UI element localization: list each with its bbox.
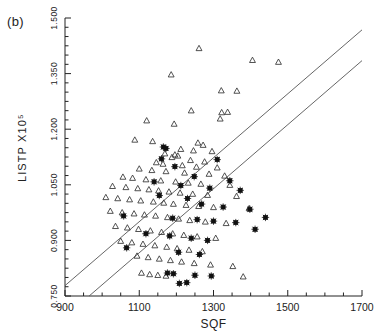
data-point-triangle xyxy=(134,253,140,258)
data-point-star xyxy=(251,226,258,233)
data-point-triangle xyxy=(147,271,153,276)
axis-frame xyxy=(65,18,362,296)
data-point-triangle xyxy=(171,121,177,126)
data-point-triangle xyxy=(225,109,231,114)
data-point-triangle xyxy=(213,235,219,240)
y-tick-label: 0.750 xyxy=(49,284,59,307)
data-point-triangle xyxy=(131,211,137,216)
data-point-star xyxy=(177,182,184,189)
data-point-triangle xyxy=(206,171,212,176)
markers-layer xyxy=(103,45,282,287)
scatter-plot: 9001100130015001700SQF0.7500.9001.0501.2… xyxy=(0,0,374,331)
data-point-triangle xyxy=(205,192,211,197)
data-point-star xyxy=(158,155,165,162)
data-point-star xyxy=(210,217,217,224)
data-point-triangle xyxy=(188,157,194,162)
data-point-triangle xyxy=(149,167,155,172)
data-point-triangle xyxy=(214,165,220,170)
y-tick-label: 0.900 xyxy=(49,229,59,252)
data-point-star xyxy=(219,203,226,210)
data-point-star xyxy=(262,214,269,221)
data-point-triangle xyxy=(158,178,164,183)
data-point-star xyxy=(142,230,149,237)
x-tick-label: 1700 xyxy=(350,301,374,313)
data-point-triangle xyxy=(177,190,183,195)
data-point-star xyxy=(170,270,177,277)
data-point-star xyxy=(176,280,183,287)
data-point-triangle xyxy=(156,256,162,261)
data-point-triangle xyxy=(190,191,196,196)
data-point-triangle xyxy=(140,241,146,246)
x-tick-label: 1300 xyxy=(202,301,226,313)
data-point-star xyxy=(193,216,200,223)
data-point-triangle xyxy=(219,109,225,114)
y-axis-title: LISTP X10⁵ xyxy=(16,113,28,182)
data-point-triangle xyxy=(136,166,142,171)
data-point-triangle xyxy=(160,161,166,166)
data-point-triangle xyxy=(124,225,130,230)
data-point-star xyxy=(232,219,239,226)
y-tick-label: 1.050 xyxy=(49,173,59,196)
data-point-star xyxy=(198,200,205,207)
data-point-triangle xyxy=(138,198,144,203)
data-point-triangle xyxy=(198,181,204,186)
data-point-star xyxy=(150,178,157,185)
data-point-triangle xyxy=(144,118,150,123)
data-point-triangle xyxy=(165,214,171,219)
data-point-star xyxy=(162,145,169,152)
data-point-triangle xyxy=(163,168,169,173)
data-point-triangle xyxy=(115,195,121,200)
data-point-star xyxy=(204,237,211,244)
fit-line-upper-fit xyxy=(65,30,362,286)
data-point-triangle xyxy=(118,238,124,243)
data-point-star xyxy=(123,244,130,251)
data-point-triangle xyxy=(191,260,197,265)
data-point-triangle xyxy=(147,228,153,233)
data-point-triangle xyxy=(185,180,191,185)
data-point-star xyxy=(190,173,197,180)
data-point-triangle xyxy=(234,193,240,198)
data-point-triangle xyxy=(173,179,179,184)
y-tick-label: 1.200 xyxy=(49,118,59,141)
x-axis-title: SQF xyxy=(200,317,226,331)
data-point-triangle xyxy=(250,57,256,62)
data-point-star xyxy=(191,272,198,279)
data-point-triangle xyxy=(130,175,136,180)
data-point-triangle xyxy=(179,162,185,167)
data-point-triangle xyxy=(188,108,194,113)
data-point-triangle xyxy=(150,138,156,143)
data-point-triangle xyxy=(230,263,236,268)
data-point-triangle xyxy=(166,189,172,194)
data-point-triangle xyxy=(186,247,192,252)
data-point-triangle xyxy=(139,270,145,275)
data-point-triangle xyxy=(110,183,116,188)
data-point-triangle xyxy=(195,140,201,145)
data-point-star xyxy=(166,232,173,239)
x-tick-label: 1500 xyxy=(276,301,300,313)
data-point-triangle xyxy=(202,159,208,164)
data-point-triangle xyxy=(168,72,174,77)
data-point-star xyxy=(196,251,203,258)
data-point-star xyxy=(120,212,127,219)
data-point-triangle xyxy=(193,164,199,169)
data-point-star xyxy=(237,187,244,194)
data-point-triangle xyxy=(209,148,215,153)
data-point-triangle xyxy=(156,188,162,193)
data-point-triangle xyxy=(222,173,228,178)
data-point-star xyxy=(156,192,163,199)
data-point-triangle xyxy=(179,259,185,264)
figure-container: (b) 9001100130015001700SQF0.7500.9001.05… xyxy=(0,0,374,331)
data-point-star xyxy=(226,177,233,184)
data-point-triangle xyxy=(143,177,149,182)
data-point-star xyxy=(171,163,178,170)
data-point-triangle xyxy=(178,146,184,151)
data-point-triangle xyxy=(196,45,202,50)
data-point-triangle xyxy=(150,199,156,204)
data-point-triangle xyxy=(170,201,176,206)
data-point-triangle xyxy=(240,274,246,279)
data-point-triangle xyxy=(155,272,161,277)
x-tick-label: 1100 xyxy=(128,301,151,313)
data-point-triangle xyxy=(120,174,126,179)
data-point-triangle xyxy=(145,254,151,259)
data-point-triangle xyxy=(183,202,189,207)
